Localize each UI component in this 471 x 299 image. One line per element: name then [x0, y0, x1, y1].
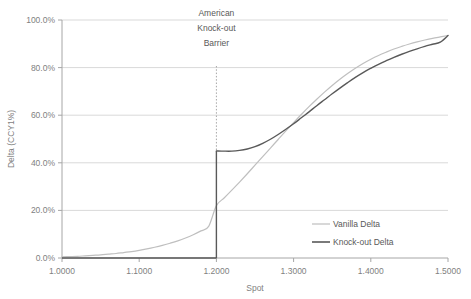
barrier-annotation-line-1: Knock-out [197, 23, 236, 33]
legend-label-0: Vanilla Delta [333, 219, 380, 229]
x-tick-label-0: 1.0000 [49, 266, 75, 276]
y-tick-label-1: 20.0% [31, 205, 56, 215]
y-tick-label-4: 80.0% [31, 63, 56, 73]
x-tick-label-2: 1.2000 [203, 266, 229, 276]
delta-vs-spot-chart: 0.0%20.0%40.0%60.0%80.0%100.0%1.00001.10… [0, 0, 471, 299]
x-tick-label-1: 1.1000 [126, 266, 152, 276]
y-tick-label-0: 0.0% [36, 253, 56, 263]
y-tick-label-3: 60.0% [31, 110, 56, 120]
x-axis-title: Spot [246, 283, 264, 293]
x-tick-label-5: 1.5000 [435, 266, 461, 276]
legend-label-1: Knock-out Delta [333, 237, 394, 247]
plot-area [62, 20, 448, 258]
barrier-annotation-line-0: American [198, 8, 234, 18]
barrier-annotation-line-2: Barrier [204, 38, 230, 48]
y-tick-label-2: 40.0% [31, 158, 56, 168]
x-tick-label-3: 1.3000 [281, 266, 307, 276]
x-tick-label-4: 1.4000 [358, 266, 384, 276]
y-tick-label-5: 100.0% [26, 15, 55, 25]
chart-container: 0.0%20.0%40.0%60.0%80.0%100.0%1.00001.10… [0, 0, 471, 299]
y-axis-title: Delta (CCY1%) [6, 110, 16, 168]
